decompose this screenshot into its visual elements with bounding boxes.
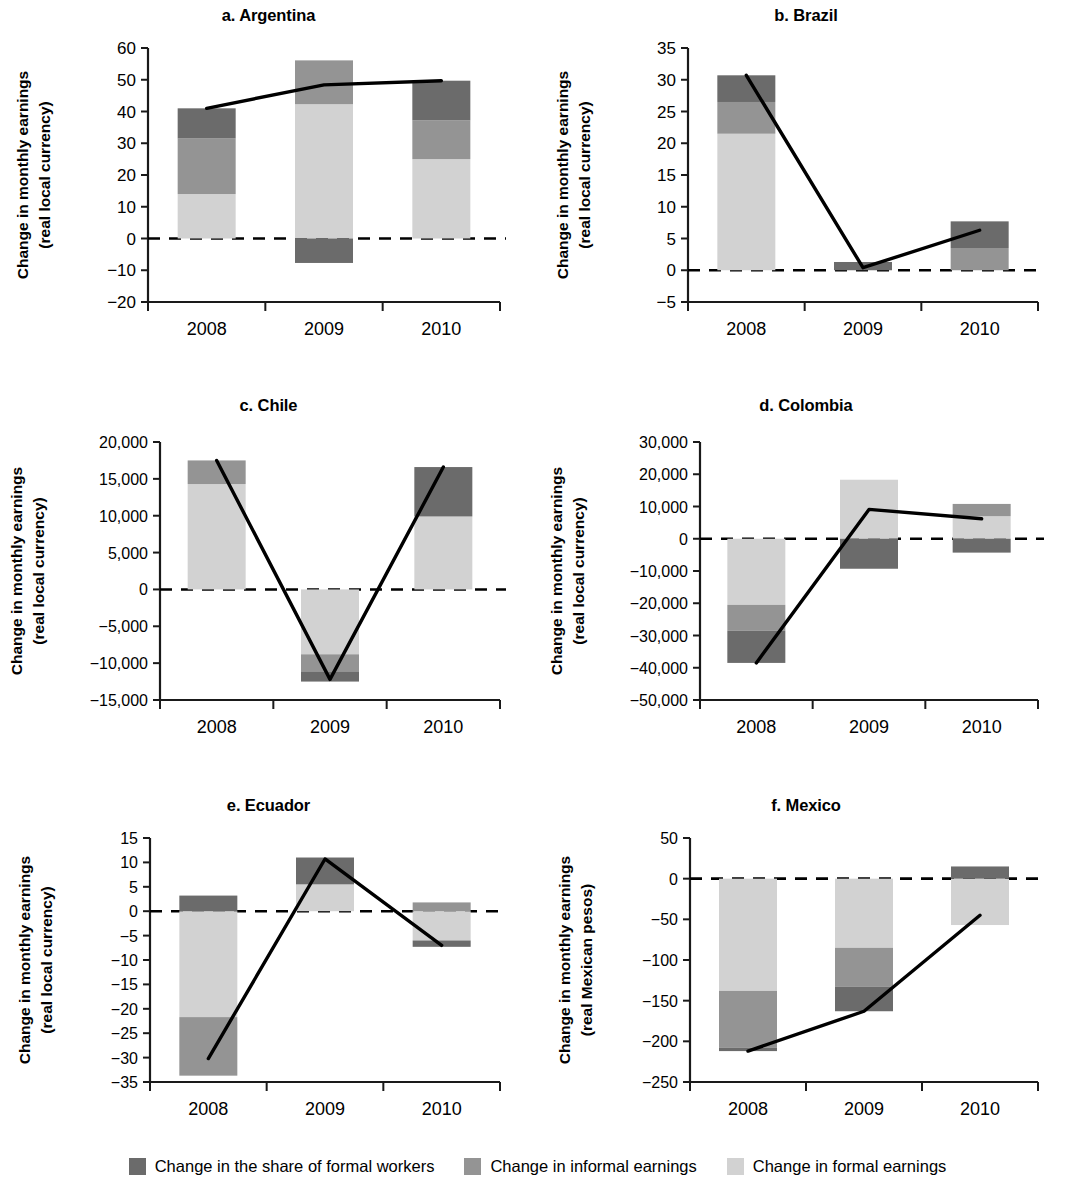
y-tick-label: 5 <box>129 879 138 896</box>
legend-swatch-informal-earnings-icon <box>464 1158 481 1175</box>
panel-title-brazil: b. Brazil <box>537 0 1075 30</box>
y-tick-label: −15 <box>111 976 138 993</box>
plot-area-mexico: −250−200−150−100−50050200820092010Change… <box>537 820 1075 1135</box>
y-axis-title-line2: (real local currency) <box>30 497 47 644</box>
x-tick-label: 2010 <box>960 319 1000 339</box>
panel-brazil: b. Brazil −505101520253035200820092010Ch… <box>537 0 1075 390</box>
y-axis-title-line1: Change in monthly earnings <box>556 856 573 1064</box>
panel-colombia: d. Colombia −50,000−40,000−30,000−20,000… <box>537 390 1075 790</box>
x-tick-label: 2009 <box>310 717 350 737</box>
y-tick-label: −50 <box>651 911 678 928</box>
y-tick-label: −10 <box>111 952 138 969</box>
y-tick-label: −40,000 <box>630 660 688 677</box>
bar-segment-informal_earnings <box>178 138 236 194</box>
y-tick-label: −100 <box>642 952 678 969</box>
y-tick-label: 10 <box>117 198 136 217</box>
y-tick-label: −10 <box>107 261 136 280</box>
panel-mexico: f. Mexico −250−200−150−100−5005020082009… <box>537 790 1075 1135</box>
bar-segment-formal_share <box>840 539 898 569</box>
y-tick-label: −25 <box>111 1025 138 1042</box>
y-tick-label: 0 <box>127 230 136 249</box>
y-tick-label: 10,000 <box>639 499 688 516</box>
y-tick-label: 20,000 <box>99 434 148 451</box>
y-tick-label: 20 <box>117 166 136 185</box>
chart-svg-a: −20−100102030405060200820092010Change in… <box>0 30 537 390</box>
y-tick-label: −20 <box>107 293 136 312</box>
bar-segment-informal_earnings <box>727 605 785 631</box>
legend-swatch-formal-share-icon <box>129 1158 146 1175</box>
y-tick-label: 50 <box>117 71 136 90</box>
bar-segment-informal_earnings <box>953 504 1011 516</box>
bar-segment-formal_share <box>717 75 775 102</box>
y-tick-label: −20,000 <box>630 595 688 612</box>
bar-segment-formal_earnings <box>413 911 471 940</box>
y-tick-label: 10,000 <box>99 508 148 525</box>
bar-segment-formal_earnings <box>835 879 893 948</box>
x-tick-label: 2010 <box>960 1099 1000 1119</box>
bar-segment-formal_earnings <box>296 884 354 911</box>
y-tick-label: 0 <box>129 903 138 920</box>
bar-segment-formal_share <box>412 81 470 121</box>
panel-title-argentina: a. Argentina <box>0 0 537 30</box>
y-tick-label: 0 <box>139 581 148 598</box>
x-tick-label: 2010 <box>422 1099 462 1119</box>
y-tick-label: −50,000 <box>630 692 688 709</box>
y-tick-label: −10,000 <box>630 563 688 580</box>
bar-segment-informal_earnings <box>301 654 359 672</box>
y-tick-label: −20 <box>111 1001 138 1018</box>
total-change-line <box>746 75 979 267</box>
bar-segment-formal_share <box>295 239 353 263</box>
bar-segment-informal_earnings <box>413 902 471 911</box>
y-tick-label: 60 <box>117 39 136 58</box>
y-tick-label: 0 <box>667 261 676 280</box>
y-tick-label: 10 <box>120 854 138 871</box>
y-tick-label: −5 <box>120 928 138 945</box>
y-tick-label: −200 <box>642 1033 678 1050</box>
y-axis-title-line1: Change in monthly earnings <box>554 71 571 279</box>
panel-chile: c. Chile −15,000−10,000−5,00005,00010,00… <box>0 390 537 790</box>
bar-segment-formal_share <box>414 467 472 516</box>
plot-area-argentina: −20−100102030405060200820092010Change in… <box>0 30 537 390</box>
x-tick-label: 2008 <box>187 319 227 339</box>
y-axis-title-line2: (real Mexican pesos) <box>578 884 595 1036</box>
x-tick-label: 2009 <box>304 319 344 339</box>
x-tick-label: 2008 <box>726 319 766 339</box>
x-tick-label: 2010 <box>423 717 463 737</box>
y-axis-title-line2: (real local currency) <box>36 101 53 248</box>
legend-item-informal-earnings: Change in informal earnings <box>464 1157 696 1176</box>
y-tick-label: −30,000 <box>630 628 688 645</box>
legend-item-formal-earnings: Change in formal earnings <box>727 1157 947 1176</box>
y-tick-label: 30,000 <box>639 434 688 451</box>
y-axis-title-line2: (real local currency) <box>38 886 55 1033</box>
x-tick-label: 2009 <box>844 1099 884 1119</box>
y-tick-label: 40 <box>117 103 136 122</box>
y-tick-label: 50 <box>660 830 678 847</box>
y-tick-label: 35 <box>657 39 676 58</box>
bar-segment-informal_earnings <box>951 248 1009 270</box>
plot-area-colombia: −50,000−40,000−30,000−20,000−10,000010,0… <box>537 420 1075 790</box>
x-tick-label: 2009 <box>305 1099 345 1119</box>
chart-svg-b: −505101520253035200820092010Change in mo… <box>537 30 1075 390</box>
chart-svg-c: −15,000−10,000−5,00005,00010,00015,00020… <box>0 420 537 790</box>
legend-label-formal-earnings: Change in formal earnings <box>753 1157 947 1176</box>
chart-svg-d: −50,000−40,000−30,000−20,000−10,000010,0… <box>537 420 1075 790</box>
x-tick-label: 2010 <box>421 319 461 339</box>
bar-segment-informal_earnings <box>295 60 353 104</box>
figure-legend: Change in the share of formal workers Ch… <box>0 1157 1075 1176</box>
y-axis-title-line1: Change in monthly earnings <box>548 467 565 675</box>
legend-swatch-formal-earnings-icon <box>727 1158 744 1175</box>
y-tick-label: 15 <box>120 830 138 847</box>
y-tick-label: −35 <box>111 1074 138 1091</box>
x-tick-label: 2009 <box>849 717 889 737</box>
y-tick-label: 10 <box>657 198 676 217</box>
y-axis-title-line1: Change in monthly earnings <box>14 71 31 279</box>
legend-label-formal-share: Change in the share of formal workers <box>155 1157 435 1176</box>
y-tick-label: −250 <box>642 1074 678 1091</box>
legend-item-formal-share: Change in the share of formal workers <box>129 1157 435 1176</box>
bar-segment-formal_share <box>951 866 1009 878</box>
y-axis-title-line1: Change in monthly earnings <box>8 467 25 675</box>
bar-segment-formal_earnings <box>727 539 785 605</box>
bar-segment-formal_share <box>835 987 893 1011</box>
chart-svg-e: −35−30−25−20−15−10−5051015200820092010Ch… <box>0 820 537 1135</box>
x-tick-label: 2010 <box>962 717 1002 737</box>
